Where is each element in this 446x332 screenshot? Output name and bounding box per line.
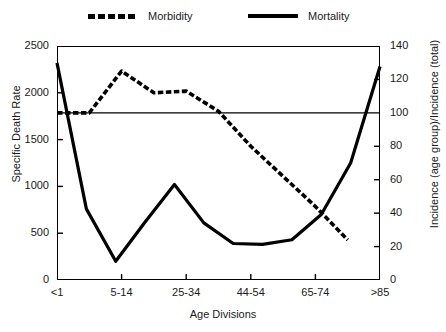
plot-canvas [0,0,446,332]
bottom-axis-title: Age Divisions [0,308,446,320]
right-tick-label: 120 [390,72,430,84]
bottom-tick-label: 44-54 [221,286,281,298]
left-tick-label: 2500 [3,39,49,51]
bottom-tick-label: 25-34 [156,286,216,298]
left-tick-label: 0 [3,273,49,285]
bottom-axis-ticks [122,274,316,280]
right-tick-label: 60 [390,173,430,185]
bottom-tick-label: >85 [350,286,410,298]
right-tick-label: 100 [390,106,430,118]
right-tick-label: 80 [390,139,430,151]
bottom-tick-label: 5-14 [92,286,152,298]
right-tick-label: 0 [390,273,430,285]
chart-figure: Morbidity Mortality 05001000150020002500… [0,0,446,332]
right-axis-ticks [374,79,380,246]
right-tick-label: 140 [390,39,430,51]
bottom-tick-label: 65-74 [285,286,345,298]
left-axis-title: Specific Death Rate [10,54,22,214]
right-tick-label: 20 [390,240,430,252]
bottom-tick-label: <1 [27,286,87,298]
left-tick-label: 500 [3,226,49,238]
right-axis-title: Incidence (age group)/Incidence (total) [428,24,440,244]
series-line-morbidity [57,71,348,240]
right-tick-label: 40 [390,206,430,218]
